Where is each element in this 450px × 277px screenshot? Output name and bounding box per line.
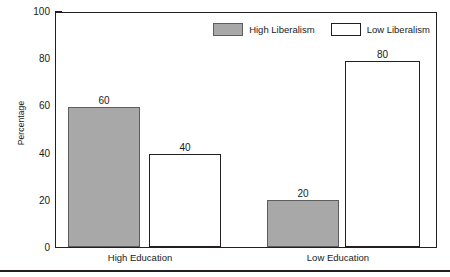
legend-label-low-liberalism: Low Liberalism [367,24,430,35]
y-tick-label-80: 80 [20,53,50,64]
y-tick-label-0: 0 [20,242,50,253]
y-tick-label-100: 100 [20,6,50,17]
y-tick-label-40: 40 [20,148,50,159]
x-category-label-low-education: Low Education [278,252,398,263]
legend-label-high-liberalism: High Liberalism [249,24,314,35]
bar-low-education-low-liberalism[interactable]: 80 [345,61,420,247]
bar-value-label: 60 [98,95,109,106]
bar-value-label: 20 [297,188,308,199]
bar-low-education-high-liberalism[interactable]: 20 [267,200,339,247]
y-tick-label-60: 60 [20,100,50,111]
legend-item-low-liberalism[interactable]: Low Liberalism [331,23,430,36]
x-category-label-high-education: High Education [80,252,200,263]
bar-high-education-high-liberalism[interactable]: 60 [68,107,140,247]
bar-value-label: 40 [179,142,190,153]
bar-high-education-low-liberalism[interactable]: 40 [149,154,221,247]
y-tick-label-20: 20 [20,195,50,206]
bar-chart-figure: Percentage 100 80 60 40 20 0 High Libera… [0,0,450,277]
footer-divider [0,270,450,272]
legend-swatch-filled-icon [213,23,243,36]
legend-swatch-hollow-icon [331,23,361,36]
bar-value-label: 80 [377,49,388,60]
plot-area: High Liberalism Low Liberalism 60 40 20 … [55,12,437,248]
legend-item-high-liberalism[interactable]: High Liberalism [213,23,314,36]
legend: High Liberalism Low Liberalism [213,23,430,36]
